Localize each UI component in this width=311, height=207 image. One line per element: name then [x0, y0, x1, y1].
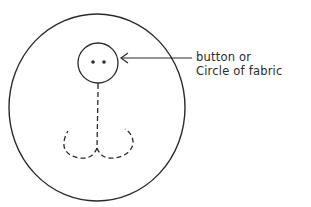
- button-hole-left: [91, 60, 95, 64]
- dashed-loop-right: [97, 129, 133, 158]
- annotation-label-line1: button or: [196, 51, 251, 64]
- annotation-label-line2: Circle of fabric: [196, 65, 283, 78]
- dashed-stitch-line: [97, 92, 98, 148]
- button-circle: [78, 43, 118, 83]
- diagram-canvas: [0, 0, 311, 207]
- outer-fabric-circle: [9, 14, 185, 201]
- button-hole-right: [102, 60, 106, 64]
- dashed-loop-left: [64, 131, 97, 158]
